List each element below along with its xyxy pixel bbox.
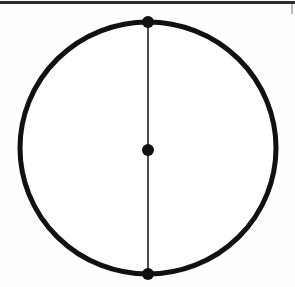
scanned-page	[0, 0, 295, 287]
point-top-marker	[142, 16, 154, 28]
point-center-marker	[142, 144, 154, 156]
point-bottom-marker	[142, 268, 154, 280]
circle-diagram-svg	[0, 0, 295, 287]
geometry-figure	[0, 0, 295, 287]
